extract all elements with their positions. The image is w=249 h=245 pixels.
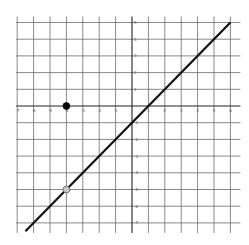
- function-line: [25, 23, 230, 232]
- y-tick-label: -6: [134, 204, 138, 209]
- y-tick-label: -2: [134, 137, 138, 142]
- x-tick-label: -5: [48, 108, 52, 113]
- x-tick-label: -1: [114, 108, 118, 113]
- x-tick-label: 1: [147, 108, 150, 113]
- y-tick-label: -7: [134, 220, 138, 225]
- x-tick-label: -2: [97, 108, 101, 113]
- x-tick-label: 6: [229, 108, 232, 113]
- x-tick-label: -7: [15, 108, 19, 113]
- open-point: [63, 186, 70, 193]
- x-tick-label: 2: [164, 108, 167, 113]
- y-tick-label: -3: [134, 154, 138, 159]
- x-tick-label: -6: [32, 108, 36, 113]
- x-tick-label: 4: [196, 108, 199, 113]
- x-tick-label: -3: [81, 108, 85, 113]
- x-tick-label: 3: [180, 108, 183, 113]
- grid-lines: [16, 17, 240, 233]
- closed-point: [63, 103, 70, 110]
- y-tick-label: -5: [134, 187, 138, 192]
- x-tick-label: 5: [213, 108, 216, 113]
- y-tick-label: -4: [134, 170, 138, 175]
- coordinate-plane: -7-6-5-4-3-2-112345654321-1-2-3-4-5-6-7: [0, 0, 249, 245]
- line-y-equals-x-minus-1: [25, 23, 230, 232]
